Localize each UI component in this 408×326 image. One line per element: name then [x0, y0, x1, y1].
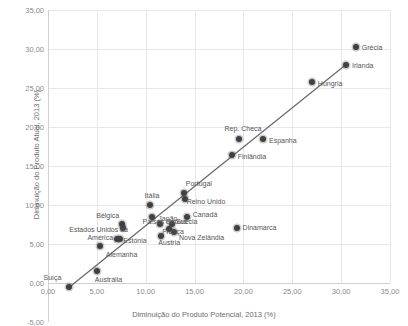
scatter-chart: -5,000,005,0010,0015,0020,0025,0030,0035… [0, 0, 408, 326]
trendline [0, 0, 408, 326]
x-axis-title: Diminuição do Produto Potencial, 2013 (%… [0, 310, 408, 319]
y-axis-title: Diminuição do Produto Atual, 2013 (%) [32, 65, 41, 245]
